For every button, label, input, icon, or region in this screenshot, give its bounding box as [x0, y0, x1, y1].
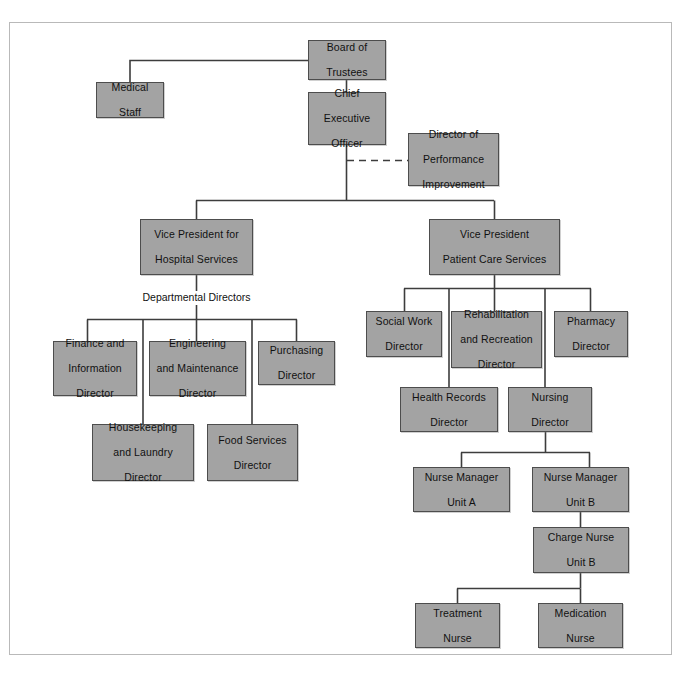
engineering-line2: and Maintenance	[152, 362, 243, 375]
medical-staff-line1: Medical	[99, 81, 161, 94]
nurse-manager-a-line1: Nurse Manager	[416, 471, 507, 484]
rehabilitation-line3: Director	[454, 358, 539, 371]
node-medical-staff[interactable]: Medical Staff	[96, 82, 164, 118]
node-nurse-manager-unit-b[interactable]: Nurse Manager Unit B	[532, 467, 629, 512]
node-vp-hospital-services[interactable]: Vice President for Hospital Services	[140, 219, 253, 275]
vp-hospital-line2: Hospital Services	[143, 253, 250, 266]
node-medication-nurse[interactable]: Medication Nurse	[538, 603, 623, 648]
performance-line1: Director of	[411, 128, 496, 141]
org-chart-canvas: Board of Trustees Medical Staff Chief Ex…	[0, 0, 684, 676]
board-of-trustees-line1: Board of	[311, 41, 383, 54]
node-finance-and-information-director[interactable]: Finance and Information Director	[53, 341, 137, 396]
caption-departmental-directors: Departmental Directors	[131, 291, 262, 304]
housekeeping-line3: Director	[95, 471, 191, 484]
treatment-nurse-line1: Treatment	[418, 607, 497, 620]
rehabilitation-line2: and Recreation	[454, 333, 539, 346]
node-food-services-director[interactable]: Food Services Director	[207, 424, 298, 481]
nurse-manager-b-line1: Nurse Manager	[535, 471, 626, 484]
charge-nurse-line2: Unit B	[536, 556, 626, 569]
rehabilitation-line1: Rehabilitation	[454, 308, 539, 321]
charge-nurse-line1: Charge Nurse	[536, 531, 626, 544]
finance-line3: Director	[56, 387, 134, 400]
nurse-manager-b-line2: Unit B	[535, 496, 626, 509]
medication-nurse-line2: Nurse	[541, 632, 620, 645]
node-director-of-performance-improvement[interactable]: Director of Performance Improvement	[408, 133, 499, 186]
treatment-nurse-line2: Nurse	[418, 632, 497, 645]
node-housekeeping-and-laundry-director[interactable]: Housekeeping and Laundry Director	[92, 424, 194, 481]
node-nursing-director[interactable]: Nursing Director	[508, 387, 592, 432]
vp-patient-care-line2: Patient Care Services	[432, 253, 557, 266]
nursing-director-line2: Director	[511, 416, 589, 429]
nursing-director-line1: Nursing	[511, 391, 589, 404]
ceo-line2: Executive	[311, 112, 383, 125]
health-records-line1: Health Records	[403, 391, 495, 404]
node-rehabilitation-and-recreation-director[interactable]: Rehabilitation and Recreation Director	[451, 311, 542, 368]
node-vp-patient-care-services[interactable]: Vice President Patient Care Services	[429, 219, 560, 275]
food-services-line2: Director	[210, 459, 295, 472]
node-treatment-nurse[interactable]: Treatment Nurse	[415, 603, 500, 648]
nurse-manager-a-line2: Unit A	[416, 496, 507, 509]
housekeeping-line2: and Laundry	[95, 446, 191, 459]
vp-hospital-line1: Vice President for	[143, 228, 250, 241]
medical-staff-line2: Staff	[99, 106, 161, 119]
engineering-line3: Director	[152, 387, 243, 400]
engineering-line1: Engineering	[152, 337, 243, 350]
performance-line2: Performance	[411, 153, 496, 166]
finance-line2: Information	[56, 362, 134, 375]
node-nurse-manager-unit-a[interactable]: Nurse Manager Unit A	[413, 467, 510, 512]
purchasing-line2: Director	[261, 369, 332, 382]
health-records-line2: Director	[403, 416, 495, 429]
housekeeping-line1: Housekeeping	[95, 421, 191, 434]
medication-nurse-line1: Medication	[541, 607, 620, 620]
node-pharmacy-director[interactable]: Pharmacy Director	[554, 311, 628, 357]
social-work-line1: Social Work	[369, 315, 439, 328]
link-board-to-medical-staff	[130, 61, 308, 83]
board-of-trustees-line2: Trustees	[311, 66, 383, 79]
node-charge-nurse-unit-b[interactable]: Charge Nurse Unit B	[533, 527, 629, 573]
node-health-records-director[interactable]: Health Records Director	[400, 387, 498, 432]
pharmacy-line1: Pharmacy	[557, 315, 625, 328]
social-work-line2: Director	[369, 340, 439, 353]
ceo-line3: Officer	[311, 137, 383, 150]
node-board-of-trustees[interactable]: Board of Trustees	[308, 40, 386, 80]
food-services-line1: Food Services	[210, 434, 295, 447]
node-chief-executive-officer[interactable]: Chief Executive Officer	[308, 92, 386, 145]
performance-line3: Improvement	[411, 178, 496, 191]
node-purchasing-director[interactable]: Purchasing Director	[258, 341, 335, 385]
purchasing-line1: Purchasing	[261, 344, 332, 357]
org-chart-page: Board of Trustees Medical Staff Chief Ex…	[0, 0, 684, 676]
pharmacy-line2: Director	[557, 340, 625, 353]
ceo-line1: Chief	[311, 87, 383, 100]
finance-line1: Finance and	[56, 337, 134, 350]
vp-patient-care-line1: Vice President	[432, 228, 557, 241]
node-engineering-and-maintenance-director[interactable]: Engineering and Maintenance Director	[149, 341, 246, 396]
node-social-work-director[interactable]: Social Work Director	[366, 311, 442, 357]
